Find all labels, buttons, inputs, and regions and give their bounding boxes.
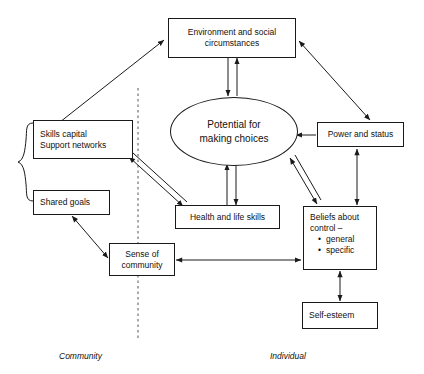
edge-environment-power — [299, 41, 370, 120]
node-label-line: Health and life skills — [190, 212, 265, 223]
node-skills-capital-support-networks[interactable]: Skills capital Support networks — [33, 120, 133, 159]
node-label-line: Beliefs about — [310, 212, 359, 223]
edge-sharedgoals-community — [72, 216, 108, 258]
node-label-line: control – — [310, 223, 343, 234]
node-self-esteem[interactable]: Self-esteem — [302, 302, 378, 329]
node-label-line: making choices — [200, 132, 269, 146]
region-label-community: Community — [59, 351, 102, 361]
node-power-and-status[interactable]: Power and status — [317, 122, 404, 147]
node-label-line: Self-esteem — [309, 310, 354, 321]
region-label-individual: Individual — [270, 351, 306, 361]
node-label-line: Power and status — [328, 129, 394, 140]
node-health-and-life-skills[interactable]: Health and life skills — [175, 205, 280, 229]
node-beliefs-about-control[interactable]: Beliefs about control – general specific — [303, 206, 377, 270]
node-shared-goals[interactable]: Shared goals — [33, 190, 110, 215]
node-label-line: Sense of — [125, 249, 159, 260]
node-label-line: community — [121, 260, 162, 271]
node-label-line: Shared goals — [40, 197, 90, 208]
edge-skills-to-environment — [60, 40, 164, 122]
node-potential-for-making-choices[interactable]: Potential for making choices — [170, 97, 298, 166]
node-label-line: Environment and social — [188, 27, 276, 38]
node-sense-of-community[interactable]: Sense of community — [109, 243, 175, 276]
node-label-line: Skills capital — [40, 129, 87, 140]
bullet-item: general — [318, 234, 354, 245]
grouping-brace — [18, 123, 33, 201]
node-label-line: circumstances — [205, 38, 259, 49]
diagram-canvas: Environment and social circumstances Pot… — [0, 0, 424, 374]
node-label-line: Support networks — [40, 140, 106, 151]
node-label-line: Potential for — [207, 118, 260, 132]
node-environment-and-social-circumstances[interactable]: Environment and social circumstances — [168, 18, 296, 58]
edge-potential-beliefs-double — [290, 155, 321, 204]
beliefs-bullet-list: general specific — [310, 234, 354, 256]
bullet-item: specific — [318, 245, 354, 256]
